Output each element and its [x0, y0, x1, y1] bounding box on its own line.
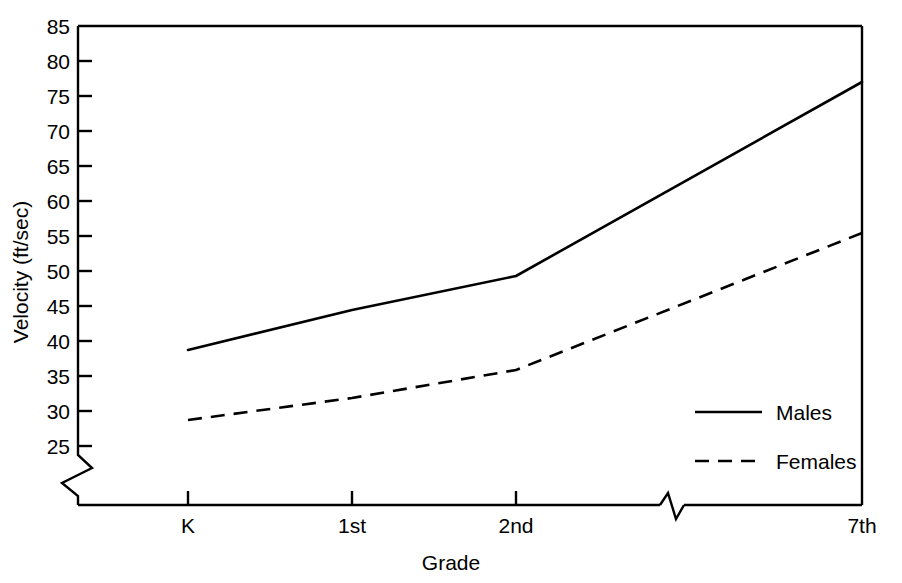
y-tick-label-55: 55 [47, 225, 70, 248]
legend-label-females: Females [776, 450, 857, 473]
y-tick-label-45: 45 [47, 295, 70, 318]
x-tick-label-7th: 7th [847, 514, 876, 537]
y-tick-label-40: 40 [47, 330, 70, 353]
y-tick-label-60: 60 [47, 190, 70, 213]
y-tick-label-50: 50 [47, 260, 70, 283]
y-tick-label-70: 70 [47, 120, 70, 143]
x-tick-label-K: K [181, 514, 195, 537]
y-tick-label-75: 75 [47, 85, 70, 108]
y-axis-title: Velocity (ft/sec) [9, 201, 32, 343]
legend-label-males: Males [776, 401, 832, 424]
velocity-by-grade-line-chart: 85 80 75 70 65 60 55 50 45 40 35 30 25 V… [0, 0, 902, 583]
y-tick-label-35: 35 [47, 365, 70, 388]
chart-container: 85 80 75 70 65 60 55 50 45 40 35 30 25 V… [0, 0, 902, 583]
y-tick-label-80: 80 [47, 50, 70, 73]
y-tick-label-25: 25 [47, 435, 70, 458]
y-tick-label-30: 30 [47, 400, 70, 423]
x-tick-label-1st: 1st [338, 514, 366, 537]
x-axis-title: Grade [422, 551, 480, 574]
y-tick-label-65: 65 [47, 155, 70, 178]
chart-background [0, 0, 902, 583]
x-tick-label-2nd: 2nd [498, 514, 533, 537]
y-tick-label-85: 85 [47, 15, 70, 38]
